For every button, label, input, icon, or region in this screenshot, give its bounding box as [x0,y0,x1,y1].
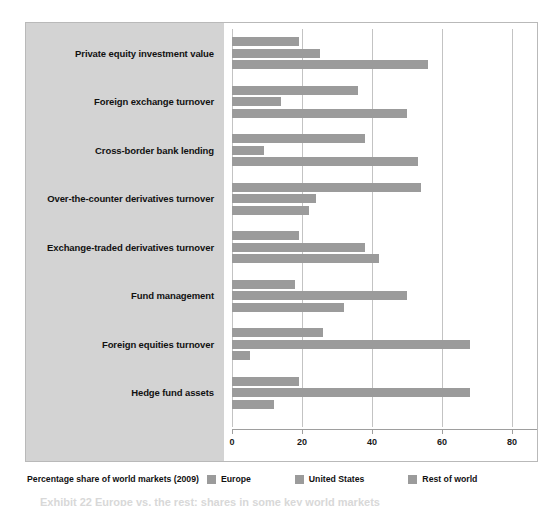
bar [232,157,418,166]
bar [232,254,379,263]
x-tick-label-0: 0 [229,437,234,447]
chart-figure: Private equity investment valueForeign e… [25,22,538,462]
x-tick-label-20: 20 [297,437,307,447]
x-tick-label-60: 60 [437,437,447,447]
bar [232,351,250,360]
legend-label: Europe [221,474,251,484]
figure-caption: Exhibit 22 Europe vs. the rest: shares i… [40,496,380,506]
legend-swatch-icon [295,475,304,484]
bar [232,134,365,143]
legend-swatch-icon [207,475,216,484]
category-label: Foreign exchange turnover [94,96,214,107]
legend-swatch-icon [408,475,417,484]
bar [232,377,299,386]
bar [232,340,470,349]
bar [232,206,309,215]
legend-label: United States [309,474,365,484]
bar [232,303,344,312]
category-label: Hedge fund assets [131,387,214,398]
bar [232,49,320,58]
legend-entry: Rest of world [408,474,477,484]
bar [232,60,428,69]
category-label: Exchange-traded derivatives turnover [47,242,214,253]
bar [232,86,358,95]
category-label: Private equity investment value [75,48,214,59]
gridline-80 [512,29,513,427]
bar [232,388,470,397]
x-tick-label-40: 40 [367,437,377,447]
category-label: Foreign equities turnover [102,339,214,350]
bar [232,328,323,337]
bar [232,243,365,252]
legend-title: Percentage share of world markets (2009) [27,474,199,484]
gridline-60 [442,29,443,427]
bar [232,37,299,46]
bar [232,291,407,300]
x-axis-line [232,429,537,430]
bar [232,231,299,240]
x-tick-label-80: 80 [507,437,517,447]
legend-entry: Europe [207,474,251,484]
category-label: Over-the-counter derivatives turnover [47,193,214,204]
gridline-40 [372,29,373,427]
category-label: Cross-border bank lending [95,145,214,156]
bar [232,146,264,155]
bar [232,109,407,118]
plot-area: 020406080 [224,23,537,461]
chart-legend: Percentage share of world markets (2009)… [27,472,527,486]
bar [232,194,316,203]
bar [232,280,295,289]
bar [232,183,421,192]
bar [232,97,281,106]
legend-label: Rest of world [422,474,477,484]
category-label: Fund management [131,290,214,301]
legend-entry: United States [295,474,365,484]
category-label-panel: Private equity investment valueForeign e… [26,23,224,461]
bar [232,400,274,409]
